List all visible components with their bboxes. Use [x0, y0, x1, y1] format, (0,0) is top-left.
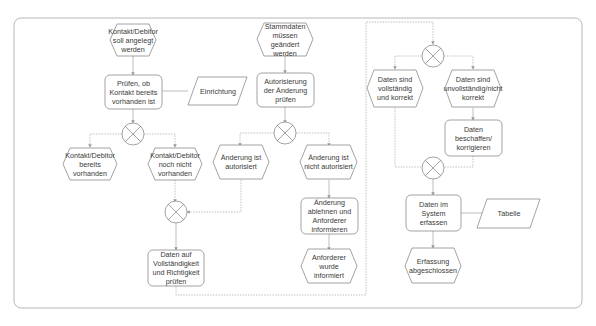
label-ablehnen: Änderung ablehnen und Anforderer informi…: [305, 198, 354, 234]
edge: [395, 108, 422, 167]
label-daten-pruefen: Daten auf Vollständigkeit und Richtigkei…: [148, 250, 204, 286]
label-abgeschlossen: Erfassung abgeschlossen: [409, 248, 457, 283]
edge: [444, 156, 473, 167]
label-autorisiert: Änderung ist autorisiert: [219, 145, 263, 179]
label-einrichtung: Einrichtung: [193, 77, 243, 105]
edge: [240, 133, 274, 145]
label-beschaffen: Daten beschaffen/ korrigieren: [452, 120, 495, 156]
label-kontakt-anlegen: Kontakt/Debitor soll angelegt werden: [113, 24, 153, 56]
edge: [395, 56, 422, 68]
xor-merge-2: [422, 157, 444, 179]
xor-merge-1: [165, 201, 187, 223]
edge: [90, 134, 122, 146]
label-stammdaten: Stammdaten müssen geändert werden: [260, 23, 310, 56]
xor-daten: [422, 45, 444, 67]
label-pruefen-kontakt: Prüfen, ob Kontakt bereits vorhanden ist: [107, 75, 160, 109]
label-autorisierung: Autorisierung der Änderung prüfen: [259, 73, 312, 107]
label-tabelle: Tabelle: [486, 199, 532, 228]
label-kontakt-vorhanden: Kontakt/Debitor bereits vorhanden: [66, 148, 114, 180]
xor-autorisierung: [274, 122, 296, 144]
xor-kontakt: [122, 123, 144, 145]
edge: [144, 134, 175, 146]
edge: [296, 133, 329, 145]
edge: [444, 56, 473, 68]
edge: [188, 180, 241, 212]
label-daten-unvollstaendig: Daten sind unvollständig/nicht korrekt: [447, 70, 499, 107]
label-erfassen: Daten im System erfassen: [408, 195, 459, 231]
label-nicht-autorisiert: Änderung ist nicht autorisiert: [303, 145, 354, 179]
label-kontakt-nicht: Kontakt/Debitor noch nicht vorhanden: [151, 148, 199, 180]
label-daten-korrekt: Daten sind vollständig und korrekt: [373, 70, 417, 107]
label-informiert: Anforderer wurde informiert: [304, 249, 354, 283]
